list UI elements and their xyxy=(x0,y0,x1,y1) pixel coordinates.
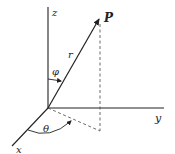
phi-label: φ xyxy=(52,66,59,77)
theta-label: θ xyxy=(43,123,49,134)
radius-label: r xyxy=(68,49,74,60)
x-axis-label: x xyxy=(16,144,22,154)
spherical-coordinates-diagram: z y x P r φ θ xyxy=(0,0,175,154)
y-axis-label: y xyxy=(154,112,162,125)
point-p-label: P xyxy=(103,11,114,25)
phi-angle-arc xyxy=(48,79,61,81)
radius-vector xyxy=(48,19,99,108)
z-axis-label: z xyxy=(51,7,58,18)
projection-ground-dashed xyxy=(48,108,100,131)
